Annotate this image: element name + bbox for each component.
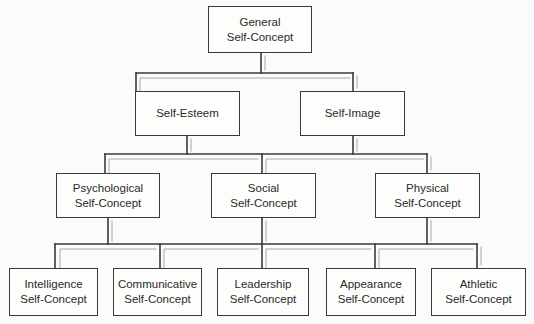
node-label: Self-Concept <box>230 292 296 307</box>
node-label: Physical <box>406 181 449 196</box>
node-self-esteem: Self-Esteem <box>135 91 240 136</box>
node-label: Self-Image <box>325 106 381 121</box>
node-label: Social <box>248 181 279 196</box>
node-label: Self-Concept <box>338 292 404 307</box>
node-self-image: Self-Image <box>300 91 405 136</box>
self-concept-hierarchy-diagram: General Self-Concept Self-Esteem Self-Im… <box>0 0 534 324</box>
node-intelligence-self-concept: Intelligence Self-Concept <box>9 268 98 316</box>
node-label: Self-Concept <box>124 292 190 307</box>
node-label: Self-Esteem <box>156 106 219 121</box>
node-label: Appearance <box>340 277 402 292</box>
node-psychological-self-concept: Psychological Self-Concept <box>56 173 160 218</box>
node-label: Self-Concept <box>394 196 460 211</box>
node-label: Athletic <box>460 277 498 292</box>
node-label: Communicative <box>118 277 197 292</box>
node-physical-self-concept: Physical Self-Concept <box>375 173 480 218</box>
node-label: Leadership <box>235 277 292 292</box>
node-appearance-self-concept: Appearance Self-Concept <box>326 268 416 316</box>
node-label: General <box>240 15 281 30</box>
node-label: Intelligence <box>24 277 82 292</box>
node-general-self-concept: General Self-Concept <box>208 6 312 53</box>
node-label: Self-Concept <box>20 292 86 307</box>
node-label: Self-Concept <box>75 196 141 211</box>
node-label: Psychological <box>73 181 143 196</box>
node-label: Self-Concept <box>227 30 293 45</box>
node-label: Self-Concept <box>230 196 296 211</box>
node-social-self-concept: Social Self-Concept <box>211 173 316 218</box>
node-label: Self-Concept <box>445 292 511 307</box>
node-communicative-self-concept: Communicative Self-Concept <box>113 268 202 316</box>
node-leadership-self-concept: Leadership Self-Concept <box>217 268 309 316</box>
node-athletic-self-concept: Athletic Self-Concept <box>431 268 526 316</box>
